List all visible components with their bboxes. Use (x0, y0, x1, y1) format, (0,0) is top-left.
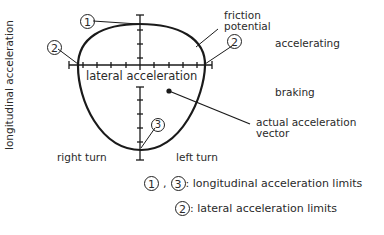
marker-1-leader (93, 21, 138, 24)
legend-longitudinal-text: : longitudinal acceleration limits (186, 177, 363, 190)
longitudinal-axis (136, 15, 144, 160)
marker-1: 1 (80, 14, 95, 29)
legend-marker-3: 3 (171, 176, 186, 191)
legend-row-lateral: 2 : lateral acceleration limits (175, 201, 337, 216)
legend-separator: , (163, 177, 167, 190)
acceleration-point (166, 88, 171, 93)
marker-2-right-leader (205, 46, 232, 64)
friction-label-line2: potential (224, 21, 271, 32)
marker-2-left: 2 (47, 40, 62, 55)
braking-label: braking (275, 87, 315, 98)
legend-marker-1: 1 (144, 176, 159, 191)
accelerating-label: accelerating (275, 38, 340, 49)
vector-label-line2: vector (256, 128, 289, 139)
longitudinal-acceleration-label: longitudinal acceleration (3, 20, 15, 150)
acceleration-vector (169, 91, 250, 124)
legend-lateral-text: : lateral acceleration limits (190, 202, 337, 215)
lateral-acceleration-label: lateral acceleration (86, 71, 197, 82)
legend-row-longitudinal: 1 , 3 : longitudinal acceleration limits (144, 176, 362, 191)
right-turn-label: right turn (57, 152, 107, 163)
left-turn-label: left turn (176, 152, 218, 163)
marker-2-right: 2 (227, 34, 242, 49)
marker-2-left-leader (58, 49, 78, 64)
friction-potential-leader (196, 29, 218, 47)
marker-3-leader (141, 128, 155, 148)
legend-marker-2: 2 (175, 201, 190, 216)
marker-3: 3 (151, 118, 165, 132)
